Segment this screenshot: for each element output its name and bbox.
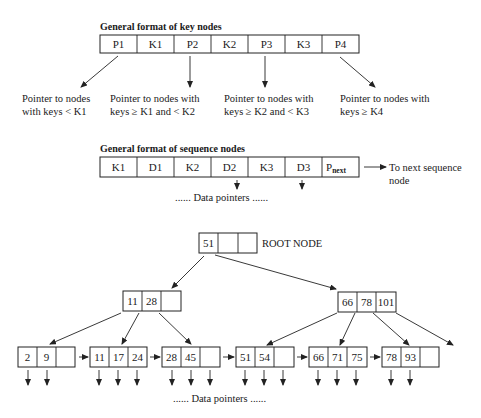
internal-node-left: 11 28: [123, 291, 181, 311]
leaf-key: 17: [113, 351, 125, 363]
sequence-node-heading: General format of sequence nodes: [100, 143, 245, 154]
leaf-node: 51 54: [236, 347, 294, 367]
leaf-key: 24: [132, 351, 144, 363]
leaf-key: 9: [44, 351, 50, 363]
leaf-key: 75: [352, 351, 364, 363]
node-key: 11: [127, 295, 138, 307]
sequence-cell: K3: [260, 161, 274, 173]
tree-edge: [340, 313, 355, 345]
leaf-node: 11 17 24: [90, 347, 147, 367]
leaf-data-pointer-arrows: [28, 370, 410, 385]
sequence-cell: D1: [149, 161, 162, 173]
pointer-label: Pointer to nodes: [22, 93, 90, 104]
node-key: 51: [203, 237, 214, 249]
tree-edge: [215, 255, 336, 289]
key-node-heading: General format of key nodes: [100, 21, 222, 32]
pointer-arrow: [81, 56, 118, 87]
key-cell: P4: [335, 38, 347, 50]
leaf-key: 11: [94, 351, 105, 363]
node-key: 101: [378, 296, 395, 308]
pointer-label: Pointer to nodes with: [110, 93, 200, 104]
pointer-label: Pointer to nodes with: [340, 93, 430, 104]
leaf-key: 28: [166, 351, 178, 363]
next-sequence-label: node: [389, 175, 410, 186]
tree-edge: [373, 313, 409, 345]
internal-node-right: 66 78 101: [338, 292, 396, 312]
key-cell: P2: [187, 38, 199, 50]
leaf-key: 51: [240, 351, 251, 363]
sequence-node-format-section: General format of sequence nodes K1 D1 K…: [100, 143, 462, 203]
leaf-key: 93: [405, 351, 417, 363]
sequence-cell: K1: [112, 161, 125, 173]
leaf-key: 2: [25, 351, 31, 363]
tree-edge: [267, 313, 337, 345]
node-key: 66: [342, 296, 354, 308]
tree-edge: [396, 313, 453, 345]
key-cell: P3: [261, 38, 273, 50]
pointer-label: keys ≥ K2 and < K3: [224, 106, 309, 117]
tree-edge: [172, 256, 204, 288]
leaf-key: 66: [313, 351, 325, 363]
pointer-label: keys ≥ K4: [340, 106, 384, 117]
leaf-key: 78: [386, 351, 398, 363]
root-node: 51 ROOT NODE: [199, 233, 322, 253]
bplus-tree-diagram: General format of key nodes P1 K1 P2 K2 …: [0, 0, 481, 418]
pointer-label: with keys < K1: [22, 106, 87, 117]
key-node-box: P1 K1 P2 K2 P3 K3 P4: [100, 35, 359, 53]
node-key: 28: [146, 295, 158, 307]
leaf-node: 2 9: [18, 347, 75, 367]
tree-section: 51 ROOT NODE 11 28 66 78 101: [18, 233, 453, 404]
tree-edge: [159, 313, 191, 344]
tree-edge: [122, 313, 139, 344]
key-cell: K2: [223, 38, 236, 50]
pnext-sub: next: [332, 166, 346, 175]
root-node-label: ROOT NODE: [262, 238, 322, 249]
tree-data-pointers-label: ...... Data pointers ......: [173, 393, 266, 404]
next-sequence-label: To next sequence: [389, 162, 462, 173]
leaf-key: 71: [332, 351, 343, 363]
pointer-label: keys ≥ K1 and < K2: [110, 106, 195, 117]
leaf-key: 54: [259, 351, 271, 363]
leaf-node: 28 45: [162, 347, 220, 367]
leaf-key: 45: [185, 351, 197, 363]
sequence-node-box: K1 D1 K2 D2 K3 D3 Pnext: [100, 157, 359, 177]
sequence-cell: D2: [223, 161, 236, 173]
leaf-node: 78 93: [382, 347, 439, 367]
data-pointers-label: ...... Data pointers ......: [175, 192, 268, 203]
sequence-cell: K2: [186, 161, 199, 173]
tree-edge: [50, 313, 121, 344]
key-cell: P1: [113, 38, 125, 50]
key-cell: K3: [297, 38, 311, 50]
pointer-label: Pointer to nodes with: [224, 93, 314, 104]
sequence-cell: D3: [297, 161, 311, 173]
key-node-format-section: General format of key nodes P1 K1 P2 K2 …: [22, 21, 430, 117]
leaf-node: 66 71 75: [309, 347, 367, 367]
node-key: 78: [361, 296, 373, 308]
pointer-arrow: [340, 57, 375, 87]
key-cell: K1: [149, 38, 162, 50]
